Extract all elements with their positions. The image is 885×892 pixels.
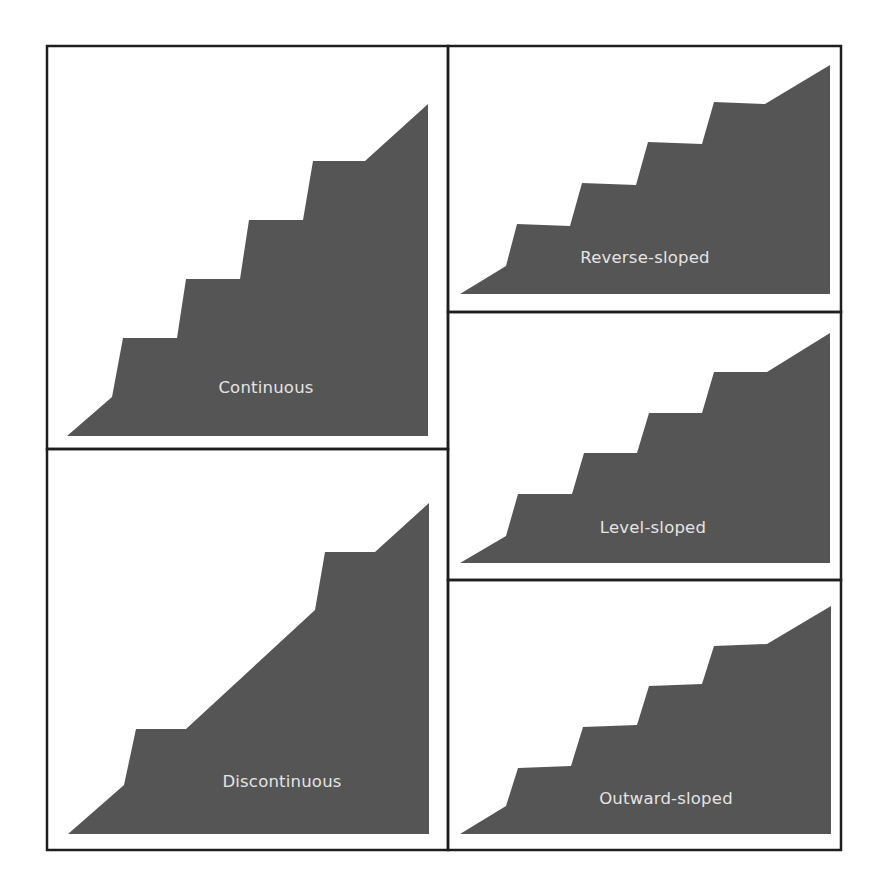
panel-label-reverse-sloped: Reverse-sloped (580, 248, 709, 267)
panel-label-continuous: Continuous (218, 378, 313, 397)
panel-label-outward-sloped: Outward-sloped (599, 789, 733, 808)
bench-geometry-figure (0, 0, 885, 892)
panel-label-level-sloped: Level-sloped (600, 518, 706, 537)
panel-label-discontinuous: Discontinuous (222, 772, 341, 791)
diagram-canvas (0, 0, 885, 892)
